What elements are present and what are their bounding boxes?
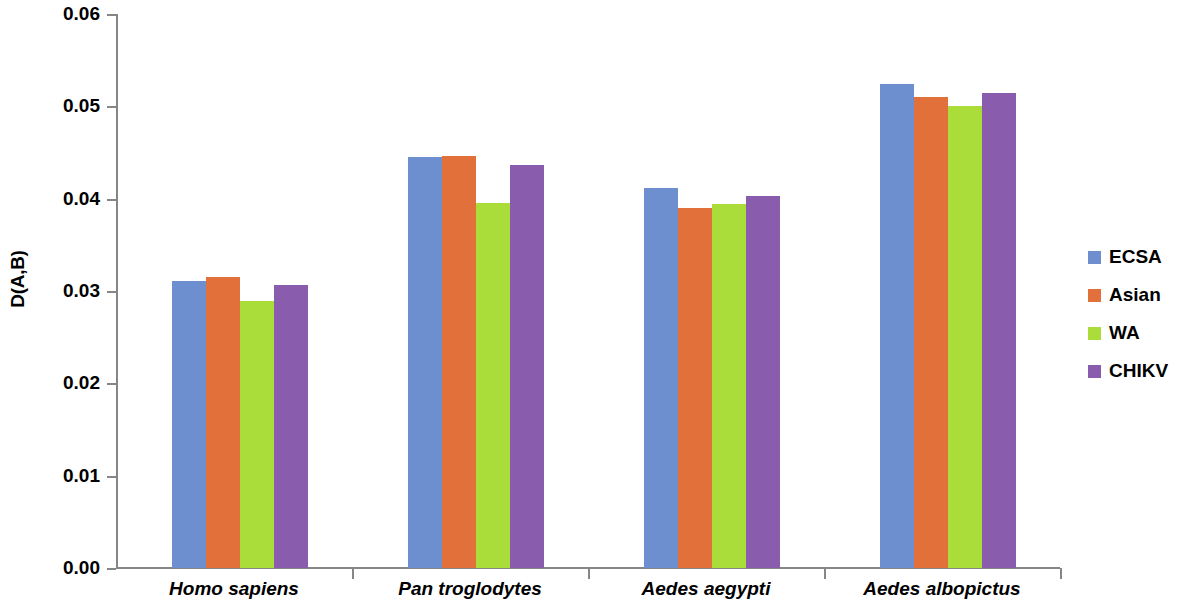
y-axis-tick-mark — [107, 568, 116, 570]
bar-chart: D(A,B) 0.060.050.040.030.020.010.00 Homo… — [0, 0, 1184, 613]
legend-item: CHIKV — [1088, 352, 1184, 390]
bar — [510, 165, 544, 568]
legend-item: Asian — [1088, 276, 1184, 314]
y-axis-line — [116, 14, 118, 568]
bar — [914, 97, 948, 568]
bar — [206, 277, 240, 568]
legend-item-label: CHIKV — [1109, 360, 1168, 382]
bar — [880, 84, 914, 568]
bar — [240, 301, 274, 568]
legend-item-label: Asian — [1109, 284, 1161, 306]
y-axis-tick-label: 0.05 — [22, 95, 100, 117]
y-axis-tick-mark — [107, 476, 116, 478]
y-axis-tick-label: 0.00 — [22, 557, 100, 579]
legend-swatch-icon — [1088, 251, 1101, 264]
y-axis-tick-label: 0.03 — [22, 280, 100, 302]
bar — [408, 157, 442, 568]
legend-item-label: WA — [1109, 322, 1140, 344]
x-axis-tick-mark — [824, 568, 826, 579]
bar — [274, 285, 308, 568]
y-axis-tick-mark — [107, 14, 116, 16]
bar — [678, 208, 712, 568]
bar — [712, 204, 746, 568]
legend-swatch-icon — [1088, 289, 1101, 302]
y-axis-tick-mark — [107, 291, 116, 293]
y-axis-tick-mark — [107, 383, 116, 385]
bar — [172, 281, 206, 568]
x-axis-tick-mark — [352, 568, 354, 579]
bar — [442, 156, 476, 568]
y-axis-tick-labels: 0.060.050.040.030.020.010.00 — [20, 0, 100, 613]
plot-area — [116, 14, 1060, 568]
bar — [948, 106, 982, 568]
legend-item: ECSA — [1088, 238, 1184, 276]
y-axis-tick-label: 0.02 — [22, 372, 100, 394]
legend-swatch-icon — [1088, 365, 1101, 378]
y-axis-tick-mark — [107, 106, 116, 108]
y-axis-tick-label: 0.06 — [22, 3, 100, 25]
x-axis-category-label: Homo sapiens — [169, 578, 299, 600]
legend-item: WA — [1088, 314, 1184, 352]
y-axis-tick-label: 0.04 — [22, 188, 100, 210]
x-axis-category-label: Pan troglodytes — [398, 578, 542, 600]
legend: ECSAAsianWACHIKV — [1088, 238, 1184, 390]
y-axis-tick-mark — [107, 199, 116, 201]
bar — [476, 203, 510, 568]
x-axis-tick-mark — [588, 568, 590, 579]
bar — [982, 93, 1016, 568]
x-axis-category-label: Aedes aegypti — [642, 578, 771, 600]
bar — [746, 196, 780, 568]
legend-swatch-icon — [1088, 327, 1101, 340]
legend-item-label: ECSA — [1109, 246, 1162, 268]
y-axis-tick-label: 0.01 — [22, 465, 100, 487]
x-axis-category-label: Aedes albopictus — [863, 578, 1020, 600]
x-axis-tick-mark — [1060, 568, 1062, 579]
bar — [644, 188, 678, 568]
